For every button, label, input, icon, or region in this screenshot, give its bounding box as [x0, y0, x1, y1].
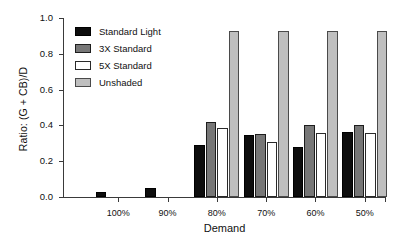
- x-axis-tick-label: 100%: [107, 208, 130, 218]
- x-axis-tick-label: 60%: [306, 208, 324, 218]
- legend-label: Unshaded: [99, 77, 142, 88]
- x-axis-tick-label: 70%: [257, 208, 275, 218]
- legend-item: 5X Standard: [75, 58, 161, 73]
- y-axis-tick-label: 0.6: [40, 84, 53, 95]
- legend-swatch: [75, 61, 91, 70]
- y-axis-tick-label: 1.0: [40, 12, 53, 23]
- chart-legend: Standard Light3X Standard5X StandardUnsh…: [75, 24, 161, 92]
- x-axis-tick: [365, 197, 366, 202]
- y-axis-tick-label: 0.2: [40, 155, 53, 166]
- x-axis-tick-label: 50%: [356, 208, 374, 218]
- bar-chart: Ratio: (G + CB)/D 0.00.20.40.60.81.0 100…: [0, 0, 402, 245]
- legend-swatch: [75, 78, 91, 87]
- y-axis-tick-label: 0.8: [40, 48, 53, 59]
- y-axis-tick-label: 0.4: [40, 119, 53, 130]
- y-axis-tick-label: 0.0: [40, 191, 53, 202]
- x-axis-end-tick: [385, 197, 386, 202]
- x-axis-tick: [217, 197, 218, 202]
- y-axis-title: Ratio: (G + CB)/D: [17, 24, 29, 194]
- bar: [342, 132, 353, 197]
- legend-label: 5X Standard: [99, 60, 152, 71]
- x-axis-line: [63, 197, 386, 198]
- legend-item: Standard Light: [75, 24, 161, 39]
- y-axis-tick: 0.0: [59, 197, 64, 198]
- legend-item: 3X Standard: [75, 41, 161, 56]
- bar: [365, 133, 376, 197]
- x-axis-tick-label: 80%: [208, 208, 226, 218]
- bar: [354, 125, 365, 197]
- legend-swatch: [75, 27, 91, 36]
- x-axis-tick: [315, 197, 316, 202]
- x-axis-title: Demand: [63, 222, 386, 234]
- x-axis-tick: [266, 197, 267, 202]
- x-axis-tick-label: 90%: [159, 208, 177, 218]
- bar: [377, 31, 388, 197]
- x-axis-tick: [118, 197, 119, 202]
- legend-label: 3X Standard: [99, 43, 152, 54]
- x-axis-tick: [168, 197, 169, 202]
- legend-label: Standard Light: [99, 26, 161, 37]
- legend-item: Unshaded: [75, 75, 161, 90]
- legend-swatch: [75, 44, 91, 53]
